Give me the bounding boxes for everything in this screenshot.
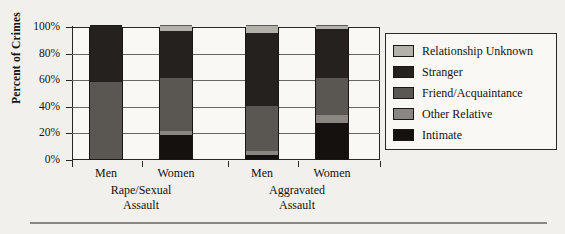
legend-swatch-other-relative	[393, 108, 414, 120]
legend-item: Stranger	[393, 61, 549, 82]
legend-label: Other Relative	[422, 108, 492, 120]
x-group-label-line: Rape/Sexual	[81, 183, 201, 198]
x-category-label: Men	[222, 166, 302, 181]
legend-swatch-relationship-unknown	[393, 45, 414, 57]
plot-area	[72, 27, 380, 160]
x-category-label: Women	[292, 166, 372, 181]
bar-segment	[160, 77, 192, 131]
bar	[245, 27, 279, 160]
bar-segment	[160, 25, 192, 31]
legend-swatch-stranger	[393, 66, 414, 78]
legend-label: Relationship Unknown	[422, 45, 533, 57]
legend-item: Other Relative	[393, 103, 549, 124]
y-tick-label: 60%	[39, 74, 60, 86]
bar-segment	[316, 28, 348, 78]
legend-label: Intimate	[422, 129, 462, 141]
y-tick-label: 80%	[39, 48, 60, 60]
bar-segment	[316, 77, 348, 115]
bar	[159, 27, 193, 160]
y-tick-label: 0%	[45, 154, 60, 166]
bar-segment	[246, 25, 278, 33]
x-group-label-line: Assault	[81, 198, 201, 213]
bar-segment	[246, 105, 278, 151]
bar-segment	[160, 30, 192, 78]
bar-segment	[90, 25, 122, 82]
horizontal-rule	[30, 222, 547, 224]
x-group-label: AggravatedAssault	[237, 183, 357, 213]
x-category-label: Men	[66, 166, 146, 181]
bar-segment	[90, 82, 122, 159]
x-group-label-line: Assault	[237, 198, 357, 213]
x-category-label: Women	[136, 166, 216, 181]
legend-item: Intimate	[393, 124, 549, 145]
bar-segment	[316, 114, 348, 123]
bar-segment	[246, 155, 278, 159]
x-tick-mark	[380, 161, 381, 167]
x-group-label: Rape/SexualAssault	[81, 183, 201, 213]
bar	[315, 27, 349, 160]
legend: Relationship Unknown Stranger Friend/Acq…	[385, 33, 557, 150]
legend-item: Friend/Acquaintance	[393, 82, 549, 103]
bar-segment	[316, 123, 348, 159]
y-tick-label: 100%	[33, 21, 60, 33]
y-tick-label: 20%	[39, 127, 60, 139]
y-axis-ticks: 100%80%60%40%20%0%	[0, 0, 68, 234]
chart-figure: Percent of Crimes 100%80%60%40%20%0% Men…	[0, 0, 565, 234]
bar-segment	[316, 25, 348, 29]
legend-label: Stranger	[422, 66, 463, 78]
y-tick-label: 40%	[39, 101, 60, 113]
legend-label: Friend/Acquaintance	[422, 87, 523, 99]
legend-swatch-intimate	[393, 129, 414, 141]
bar-segment	[246, 32, 278, 106]
bar	[89, 27, 123, 160]
legend-item: Relationship Unknown	[393, 40, 549, 61]
bar-segment	[160, 135, 192, 159]
legend-swatch-friend-acquaintance	[393, 87, 414, 99]
x-group-label-line: Aggravated	[237, 183, 357, 198]
